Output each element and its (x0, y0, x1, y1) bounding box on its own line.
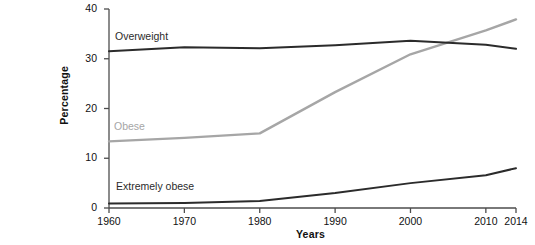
x-axis-tick-label: 1980 (240, 215, 280, 227)
y-axis-tick-label: 10 (75, 151, 97, 163)
y-axis-tick-label: 0 (75, 201, 97, 213)
series-label-obese: Obese (114, 120, 145, 132)
x-axis-tick-label: 2014 (496, 215, 535, 227)
y-axis-tick-label: 30 (75, 52, 97, 64)
x-axis-ticks (109, 208, 516, 213)
series-label-overweight: Overweight (115, 30, 168, 42)
x-axis-tick-label: 1990 (315, 215, 355, 227)
y-axis-title: Percentage (58, 66, 70, 125)
y-axis-tick-label: 20 (75, 102, 97, 114)
y-axis-ticks (104, 9, 109, 208)
series-lines (109, 19, 516, 203)
x-axis-tick-label: 1970 (164, 215, 204, 227)
x-axis-tick-label: 1960 (89, 215, 129, 227)
figure-obesity-trends: besity, inremege 20 in. Percentage Years… (0, 0, 535, 245)
x-axis-tick-label: 2000 (390, 215, 430, 227)
line-chart: Percentage Years 010203040 1960197019801… (0, 0, 535, 245)
series-label-extremely-obese: Extremely obese (116, 180, 194, 192)
y-axis-tick-label: 40 (75, 2, 97, 14)
x-axis-title: Years (296, 228, 325, 240)
series-line-obese (109, 19, 516, 141)
series-line-overweight (109, 41, 516, 51)
